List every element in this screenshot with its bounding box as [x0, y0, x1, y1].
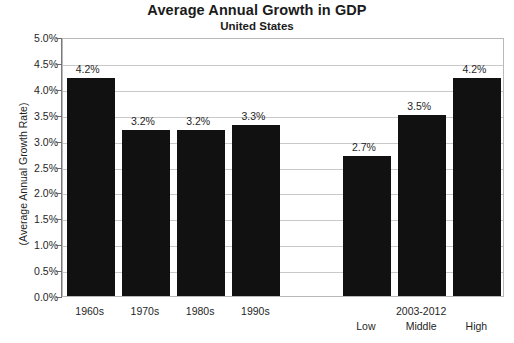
gridline	[63, 91, 503, 92]
x-tick-label: Middle	[406, 320, 437, 332]
y-tick-label: 4.5%	[12, 58, 58, 70]
bar-value-label: 4.2%	[462, 63, 486, 75]
y-tick-label: 1.0%	[12, 239, 58, 251]
bar-value-label: 3.2%	[131, 115, 155, 127]
y-tick-label: 0.5%	[12, 265, 58, 277]
bar	[67, 78, 115, 296]
x-group-label: 2003-2012	[396, 305, 446, 317]
bar	[122, 130, 170, 296]
x-tick-label: 1980s	[186, 305, 215, 317]
plot-area	[62, 38, 504, 297]
bar-value-label: 3.2%	[186, 115, 210, 127]
x-tick-label: 1990s	[241, 305, 270, 317]
x-tick-label: Low	[356, 320, 375, 332]
bar-value-label: 2.7%	[352, 141, 376, 153]
y-tick-label: 4.0%	[12, 84, 58, 96]
y-tick-label: 2.5%	[12, 162, 58, 174]
chart-subtitle: United States	[0, 20, 514, 32]
y-tick-label: 3.5%	[12, 110, 58, 122]
y-tick-label: 3.0%	[12, 136, 58, 148]
x-tick-label: High	[466, 320, 488, 332]
bar-value-label: 3.5%	[407, 100, 431, 112]
bar	[343, 156, 391, 296]
bar-value-label: 3.3%	[241, 110, 265, 122]
y-tick-label: 1.5%	[12, 213, 58, 225]
bar	[232, 125, 280, 296]
y-tick-label: 2.0%	[12, 187, 58, 199]
bar	[453, 78, 501, 296]
bar	[177, 130, 225, 296]
bar	[398, 115, 446, 296]
y-tick-label: 0.0%	[12, 291, 58, 303]
chart-screenshot: Average Annual Growth in GDP United Stat…	[0, 0, 514, 343]
y-tick-mark	[56, 297, 62, 298]
y-tick-label: 5.0%	[12, 32, 58, 44]
bar-value-label: 4.2%	[76, 63, 100, 75]
x-tick-label: 1970s	[131, 305, 160, 317]
x-tick-label: 1960s	[75, 305, 104, 317]
gridline	[63, 65, 503, 66]
chart-title: Average Annual Growth in GDP	[0, 2, 514, 18]
